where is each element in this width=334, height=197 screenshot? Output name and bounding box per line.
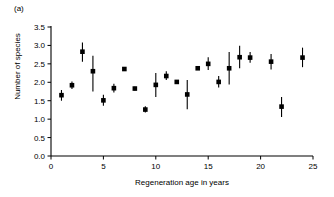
- data-point: [195, 66, 200, 71]
- y-tick-label: 1.5: [34, 97, 46, 106]
- data-point: [216, 76, 221, 87]
- x-tick-label: 25: [309, 162, 318, 171]
- x-axis-label: Regeneration age in years: [51, 178, 313, 187]
- data-point: [112, 84, 117, 93]
- scatter-plot-canvas: 0.00.51.01.52.02.53.03.5 0510152025: [0, 0, 334, 197]
- data-point: [122, 67, 127, 72]
- data-point: [154, 73, 159, 97]
- data-point: [101, 95, 106, 106]
- data-point: [279, 97, 284, 117]
- data-point: [206, 57, 211, 70]
- x-tick-label: 5: [101, 162, 106, 171]
- data-point: [300, 48, 305, 68]
- data-point: [91, 56, 96, 92]
- y-axis-ticks: 0.00.51.01.52.02.53.03.5: [34, 23, 51, 161]
- panel-label: (a): [14, 4, 24, 13]
- data-point: [133, 86, 138, 91]
- data-point: [185, 80, 190, 109]
- y-tick-label: 1.0: [34, 115, 46, 124]
- data-point: [59, 90, 64, 101]
- chart-figure: (a) Number of species Regeneration age i…: [0, 0, 334, 197]
- data-point: [248, 52, 253, 63]
- data-point: [227, 52, 232, 84]
- y-axis-label: Number of species: [13, 24, 22, 110]
- x-tick-label: 15: [204, 162, 213, 171]
- data-point: [143, 106, 148, 112]
- data-point: [70, 82, 75, 89]
- y-tick-label: 3.5: [34, 23, 46, 32]
- data-point: [269, 54, 274, 69]
- data-point: [174, 80, 179, 85]
- x-tick-label: 20: [256, 162, 265, 171]
- x-tick-label: 10: [151, 162, 160, 171]
- data-points: [59, 42, 305, 116]
- data-point: [237, 46, 242, 68]
- y-tick-label: 3.0: [34, 41, 46, 50]
- data-point: [164, 71, 169, 80]
- y-tick-label: 0.5: [34, 134, 46, 143]
- y-tick-label: 0.0: [34, 152, 46, 161]
- data-point: [80, 42, 85, 61]
- y-tick-label: 2.5: [34, 60, 46, 69]
- x-tick-label: 0: [49, 162, 54, 171]
- y-tick-label: 2.0: [34, 78, 46, 87]
- x-axis-ticks: 0510152025: [49, 156, 318, 171]
